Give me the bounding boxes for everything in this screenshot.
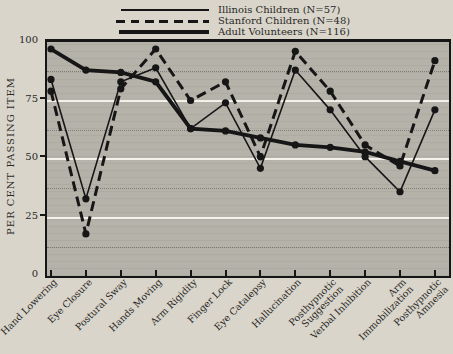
illinois-line-icon [121, 9, 209, 11]
stanford-line-sample [116, 20, 209, 23]
data-point-illinois [431, 106, 438, 113]
legend-entry-adult: Adult Volunteers (N=116) [116, 27, 350, 37]
x-tick-label: Hand Lowering [0, 277, 59, 337]
legend-label: Stanford Children (N=48) [218, 16, 350, 26]
data-point-stanford [222, 78, 229, 85]
data-point-illinois [117, 78, 124, 85]
legend-label: Adult Volunteers (N=116) [218, 27, 350, 37]
data-point-stanford [431, 57, 438, 64]
data-point-adult [257, 134, 264, 141]
data-point-adult [292, 141, 299, 148]
illinois-line-sample [116, 9, 209, 11]
y-tick-label: 50 [14, 151, 38, 162]
data-point-illinois [257, 165, 264, 172]
data-point-illinois [47, 76, 54, 83]
legend-entry-stanford: Stanford Children (N=48) [116, 16, 350, 26]
data-point-stanford [187, 97, 194, 104]
y-tick-label: 0 [14, 268, 38, 279]
plot-area [45, 39, 451, 278]
series-line-stanford [51, 49, 435, 234]
data-point-adult [222, 127, 229, 134]
chart-legend: Illinois Children (N=57)Stanford Childre… [116, 5, 350, 38]
data-point-illinois [396, 188, 403, 195]
data-point-adult [362, 148, 369, 155]
data-point-adult [117, 69, 124, 76]
data-point-adult [327, 144, 334, 151]
y-tick-label: 75 [14, 92, 38, 103]
data-point-illinois [327, 106, 334, 113]
data-point-stanford [362, 141, 369, 148]
data-point-illinois [152, 64, 159, 71]
legend-entry-illinois: Illinois Children (N=57) [116, 5, 350, 15]
data-point-illinois [82, 195, 89, 202]
adult-line-icon [119, 30, 209, 34]
legend-label: Illinois Children (N=57) [218, 5, 340, 15]
data-point-stanford [327, 88, 334, 95]
y-tick-label: 25 [14, 209, 38, 220]
data-point-adult [431, 167, 438, 174]
chart-figure: Illinois Children (N=57)Stanford Childre… [0, 0, 453, 354]
x-axis-labels: Hand LoweringEye ClosurePostural SwayHan… [45, 277, 447, 352]
data-point-illinois [222, 99, 229, 106]
adult-line-sample [116, 30, 209, 34]
data-point-adult [152, 78, 159, 85]
data-point-adult [187, 125, 194, 132]
data-point-illinois [292, 66, 299, 73]
stanford-line-icon [116, 20, 209, 23]
data-point-adult [47, 45, 54, 52]
data-series-layer [47, 42, 449, 276]
y-tick-label: 100 [14, 34, 38, 45]
data-point-stanford [152, 45, 159, 52]
data-point-stanford [292, 48, 299, 55]
data-point-stanford [82, 230, 89, 237]
data-point-adult [396, 158, 403, 165]
data-point-adult [82, 66, 89, 73]
